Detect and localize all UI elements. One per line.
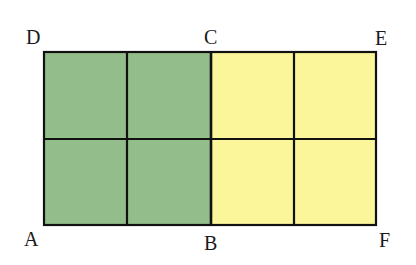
label-b: B [204, 233, 217, 253]
label-f: F [379, 230, 390, 250]
label-a: A [24, 229, 38, 249]
label-e: E [375, 28, 387, 48]
label-d: D [26, 27, 40, 47]
label-c: C [204, 27, 217, 47]
